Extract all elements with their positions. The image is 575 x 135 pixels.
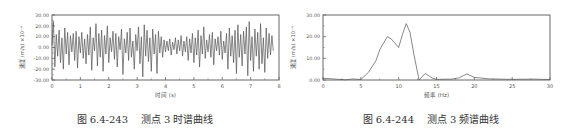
time-history-x-tick-label: 4 [164, 83, 167, 89]
time-history-x-tick-label: 1 [79, 83, 82, 89]
spectrum-x-axis-label: 频率 (Hz) [424, 91, 449, 99]
spectrum-y-axis-label: 速度 (m/s) ×10⁻⁴ [289, 26, 297, 69]
time-history-y-tick-label: 30.00 [35, 13, 49, 18]
time-history-x-tick-label: 8 [277, 83, 280, 89]
spectrum-x-tick-label: 0 [321, 83, 324, 89]
spectrum-x-tick-label: 15 [433, 83, 439, 89]
time-history-figure: 30.0020.0010.000.00-10.00-20.00-30.00012… [0, 0, 290, 135]
time-history-x-tick-label: 3 [136, 83, 139, 89]
spectrum-x-tick-label: 5 [359, 83, 362, 89]
time-history-caption: 图 6.4-243 测点 3 时谱曲线 [0, 111, 290, 126]
time-history-x-axis-label: 时间 (s) [155, 91, 176, 99]
spectrum-axes: 30.0020.0010.000.00051015202530频率 (Hz)速度… [289, 13, 553, 99]
spectrum-plot-frame [323, 15, 550, 80]
time-history-y-tick-label: 10.00 [35, 34, 49, 39]
spectrum-chart: 30.0020.0010.000.00051015202530频率 (Hz)速度… [287, 0, 575, 110]
time-history-x-tick-label: 0 [50, 83, 53, 89]
time-history-x-tick-label: 6 [221, 83, 224, 89]
spectrum-x-tick-label: 30 [547, 83, 553, 89]
spectrum-data-line [323, 24, 550, 80]
spectrum-x-tick-label: 25 [509, 83, 515, 89]
spectrum-y-tick-label: 0.00 [309, 78, 320, 83]
time-history-data-line [52, 22, 273, 77]
time-history-y-axis-label: 速度 (m/s) ×10⁻⁴ [18, 26, 26, 69]
spectrum-figure: 30.0020.0010.000.00051015202530频率 (Hz)速度… [287, 0, 575, 135]
spectrum-x-tick-label: 20 [471, 83, 477, 89]
time-history-y-tick-label: -30.00 [34, 78, 49, 83]
time-history-y-tick-label: 20.00 [35, 24, 49, 29]
spectrum-y-tick-label: 10.00 [306, 56, 320, 61]
time-history-chart: 30.0020.0010.000.00-10.00-20.00-30.00012… [0, 0, 290, 110]
spectrum-caption: 图 6.4-244 测点 3 频谱曲线 [287, 111, 575, 126]
time-history-x-tick-label: 7 [249, 83, 252, 89]
time-history-y-tick-label: -20.00 [34, 67, 49, 72]
time-history-x-tick-label: 5 [192, 83, 195, 89]
time-history-x-tick-label: 2 [107, 83, 110, 89]
spectrum-y-tick-label: 30.00 [306, 13, 320, 18]
time-history-y-tick-label: -10.00 [34, 56, 49, 61]
time-history-y-tick-label: 0.00 [38, 45, 49, 50]
spectrum-x-tick-label: 10 [395, 83, 401, 89]
spectrum-y-tick-label: 20.00 [306, 34, 320, 39]
